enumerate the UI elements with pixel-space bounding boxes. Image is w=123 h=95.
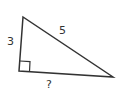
- right-angle-marker: [20, 61, 30, 72]
- hypotenuse-label: 5: [59, 24, 66, 37]
- vertical-leg-label: 3: [7, 35, 14, 48]
- horizontal-leg-label: ?: [46, 78, 52, 91]
- right-triangle: [19, 17, 113, 77]
- triangle-diagram: 3 5 ?: [0, 0, 123, 95]
